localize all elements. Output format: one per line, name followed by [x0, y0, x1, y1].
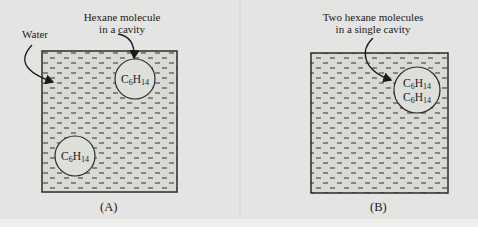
panel-a-caption: (A) — [100, 200, 117, 215]
hexane-cavity-label-line1: Hexane molecule — [72, 11, 172, 23]
hexane-cavity-label-line2: in a cavity — [72, 23, 172, 35]
panel-a-molecule-bottom: C6H14 — [55, 150, 95, 166]
two-hexane-label: Two hexane molecules in a single cavity — [313, 11, 433, 35]
panel-b-caption: (B) — [370, 200, 387, 215]
panel-b-molecule-2: C6H14 — [397, 91, 437, 107]
two-hexane-label-line1: Two hexane molecules — [313, 11, 433, 23]
water-label: Water — [15, 28, 55, 40]
two-hexane-label-line2: in a single cavity — [313, 23, 433, 35]
hexane-cavity-label: Hexane molecule in a cavity — [72, 11, 172, 35]
panel-a-molecule-top: C6H14 — [115, 73, 155, 89]
